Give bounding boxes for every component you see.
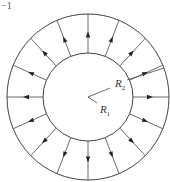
arrowhead-icon [28, 72, 34, 76]
arrowhead-icon [142, 118, 148, 122]
annular-flow-diagram: −1 R2 R1 [0, 0, 170, 182]
arrowhead-icon [109, 151, 113, 157]
r1-line [88, 97, 97, 103]
r2-label: R2 [114, 77, 126, 92]
arrowhead-icon [63, 36, 67, 42]
arrowhead-icon [86, 32, 90, 38]
arrowhead-icon [63, 151, 67, 157]
arrowhead-icon [109, 36, 113, 42]
arrowhead-icon [23, 95, 29, 99]
arrowhead-icon [147, 95, 153, 99]
arrowhead-icon [86, 157, 90, 163]
r1-label: R1 [99, 103, 111, 118]
arrowhead-icon [28, 118, 34, 122]
r2-line-extension [127, 68, 164, 80]
r2-line [88, 88, 110, 97]
corner-label: −1 [1, 0, 12, 11]
